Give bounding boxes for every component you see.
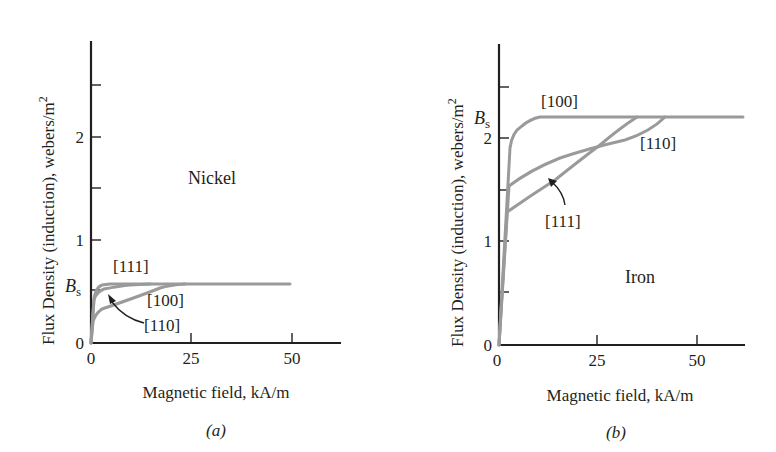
x-ticks-a: [191, 333, 292, 343]
y-axis-label-b: Flux Density (induction), webers/m2: [445, 98, 467, 347]
y-tick-label-2: 2: [76, 128, 85, 147]
label-b-111: [111]: [545, 212, 581, 231]
y-axis-label-a: Flux Density (induction), webers/m2: [36, 96, 58, 345]
y-tick-label-2: 2: [484, 129, 493, 148]
y-ticks-a: [91, 85, 101, 290]
label-b-100: [100]: [541, 92, 578, 111]
caption-b: (b): [606, 423, 626, 442]
figure: 0 1 2 Bs 0 25 50 [111] [100] [110] Nicke…: [0, 0, 776, 452]
bs-label-b: Bs: [474, 108, 490, 131]
axes-b: [499, 44, 745, 345]
bs-label-a: Bs: [65, 276, 81, 299]
axes-a: [91, 41, 341, 343]
material-label-b: Iron: [625, 267, 655, 287]
curve-b-100: [499, 117, 743, 345]
x-tick-label-0: 0: [87, 349, 96, 368]
material-label-a: Nickel: [188, 168, 236, 188]
x-tick-label-50: 50: [689, 351, 706, 370]
label-b-110: [110]: [640, 134, 676, 153]
x-tick-label-25: 25: [183, 349, 200, 368]
x-axis-label-a: Magnetic field, kA/m: [143, 383, 290, 402]
x-axis-label-b: Magnetic field, kA/m: [547, 386, 694, 405]
y-tick-label-1: 1: [484, 232, 493, 251]
x-ticks-b: [597, 335, 697, 345]
label-a-110: [110]: [144, 316, 180, 335]
y-tick-label-0: 0: [76, 334, 85, 353]
x-tick-label-50: 50: [284, 349, 301, 368]
curve-a-100: [91, 284, 150, 343]
y-tick-label-0: 0: [484, 336, 493, 355]
x-tick-label-25: 25: [589, 351, 606, 370]
x-tick-label-0: 0: [493, 351, 502, 370]
caption-a: (a): [206, 421, 226, 440]
panel-a-nickel: 0 1 2 Bs 0 25 50 [111] [100] [110] Nicke…: [36, 41, 341, 440]
label-a-100: [100]: [147, 291, 184, 310]
curve-b-111: [499, 117, 637, 345]
y-tick-label-1: 1: [76, 231, 85, 250]
panel-b-iron: 0 1 2 Bs 0 25 50 [100] [110] [111] Iron …: [445, 44, 745, 442]
label-a-111: [111]: [113, 257, 149, 276]
arrowhead-a-110: [108, 294, 116, 304]
arrow-b-111: [553, 183, 565, 205]
